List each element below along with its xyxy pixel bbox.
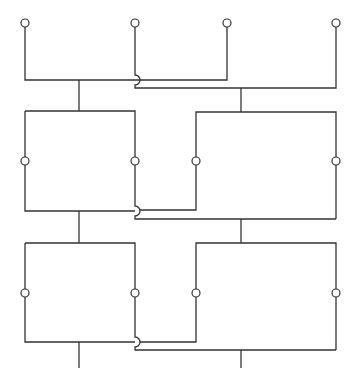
terminal-box2-left-icon[interactable] [192, 157, 200, 165]
terminal-box4-left-icon[interactable] [192, 289, 200, 297]
wire-b-crossover-2 [135, 336, 336, 350]
box-1-outline [25, 111, 135, 211]
terminal-box1-right-icon[interactable] [131, 157, 139, 165]
box-2-outline [140, 112, 336, 219]
terminal-top-1-icon[interactable] [21, 19, 29, 27]
box-4-outline [140, 243, 336, 350]
wire-a-top-left-lead [25, 27, 135, 80]
terminal-box3-right-icon[interactable] [131, 289, 139, 297]
circuit-diagram [0, 0, 357, 386]
terminals [21, 19, 340, 297]
terminal-top-2-icon[interactable] [131, 19, 139, 27]
terminal-box4-right-icon[interactable] [332, 289, 340, 297]
wire-b-crossover-1 [135, 205, 336, 219]
terminal-box3-left-icon[interactable] [21, 289, 29, 297]
wire-b-top-left-lead [135, 27, 336, 88]
terminal-box2-right-icon[interactable] [332, 157, 340, 165]
network-a [25, 27, 227, 368]
terminal-top-4-icon[interactable] [332, 19, 340, 27]
network-b [135, 27, 336, 368]
box-3-outline [25, 243, 135, 342]
terminal-box1-left-icon[interactable] [21, 157, 29, 165]
wire-a-top-right-bus [135, 27, 227, 80]
terminal-top-3-icon[interactable] [223, 19, 231, 27]
